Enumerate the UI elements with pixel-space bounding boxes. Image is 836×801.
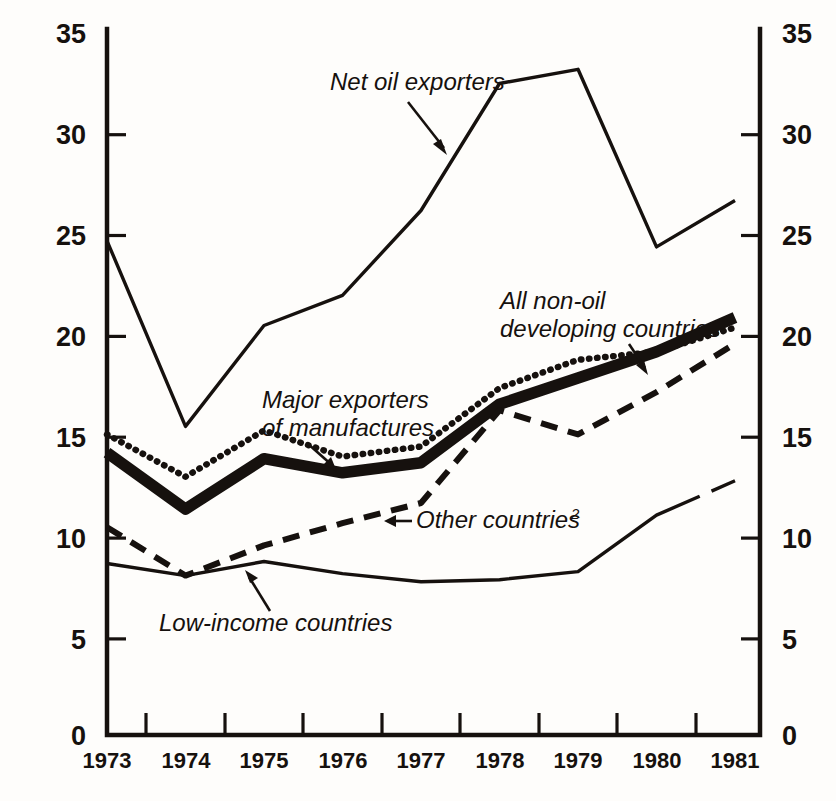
annotation-label-all-non-oil-l2: developing countries [500, 315, 720, 342]
y-left-label-30: 30 [56, 120, 86, 150]
annotation-arrow-head [433, 139, 447, 155]
x-label-1981: 1981 [711, 748, 760, 773]
x-label-1978: 1978 [476, 748, 525, 773]
annotation-arrow-head [245, 570, 258, 583]
x-label-1976: 1976 [319, 748, 368, 773]
y-axis-left-labels: 35 30 25 20 15 10 5 0 [56, 19, 86, 751]
annotation-label-low-income-countries: Low-income countries [159, 609, 392, 636]
annotation-label-major-exporters-l1: Major exporters [262, 386, 429, 413]
y-axis-right-ticks [741, 135, 760, 639]
y-right-label-10: 10 [782, 524, 812, 554]
series-net-oil-exporters [107, 69, 735, 426]
y-right-label-0: 0 [782, 721, 797, 751]
y-right-label-35: 35 [782, 19, 812, 49]
x-label-1974: 1974 [162, 748, 212, 773]
x-label-1973: 1973 [83, 748, 132, 773]
y-left-label-0: 0 [71, 721, 86, 751]
y-right-label-20: 20 [782, 322, 812, 352]
annotation-label-other-countries: Other countries [416, 506, 580, 533]
x-label-1979: 1979 [554, 748, 603, 773]
annotation-net-oil-exporters: Net oil exporters [330, 68, 505, 155]
y-axis-right-labels: 35 30 25 20 15 10 5 0 [782, 19, 812, 751]
annotation-arrow-head [384, 515, 396, 527]
y-left-label-25: 25 [56, 221, 86, 251]
annotation-label-major-exporters-l2: of manufactures [262, 414, 434, 441]
x-label-1975: 1975 [240, 748, 289, 773]
x-label-1980: 1980 [633, 748, 682, 773]
annotation-arrow-line [249, 577, 270, 611]
y-right-label-15: 15 [782, 423, 812, 453]
y-right-label-30: 30 [782, 120, 812, 150]
y-right-label-5: 5 [782, 625, 797, 655]
annotation-label-all-non-oil-l1: All non-oil [498, 287, 606, 314]
y-left-label-20: 20 [56, 322, 86, 352]
annotation-superscript-other-countries: 2 [570, 505, 580, 522]
line-chart: 35 30 25 20 15 10 5 0 35 30 25 20 15 10 … [0, 0, 836, 801]
annotation-label-net-oil-exporters: Net oil exporters [330, 68, 505, 95]
annotation-other-countries: Other countries 2 [384, 505, 580, 533]
y-right-label-25: 25 [782, 221, 812, 251]
chart-container: 35 30 25 20 15 10 5 0 35 30 25 20 15 10 … [0, 0, 836, 801]
annotation-low-income-countries: Low-income countries [159, 570, 392, 636]
y-left-label-35: 35 [56, 19, 86, 49]
y-left-label-5: 5 [71, 625, 86, 655]
y-left-label-15: 15 [56, 423, 86, 453]
y-left-label-10: 10 [56, 524, 86, 554]
x-axis-labels: 1973 1974 1975 1976 1977 1978 1979 1980 … [83, 748, 760, 773]
x-label-1977: 1977 [397, 748, 446, 773]
x-axis-ticks [146, 713, 696, 735]
